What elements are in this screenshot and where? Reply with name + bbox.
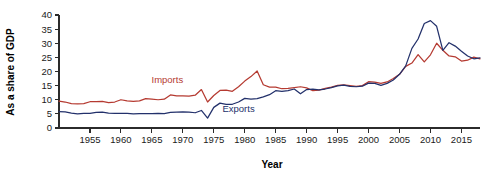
x-tick-label: 1995 — [327, 134, 348, 145]
y-axis-title: As a share of GDP — [5, 28, 16, 116]
x-axis-title: Year — [261, 159, 282, 170]
exports-label: Exports — [222, 103, 254, 114]
x-tick-label: 1980 — [234, 134, 255, 145]
x-tick-label: 1965 — [141, 134, 162, 145]
x-tick-label: 2010 — [420, 134, 441, 145]
x-tick-label: 1975 — [203, 134, 224, 145]
y-axis-tick-labels: 0510152025303540 — [41, 9, 52, 133]
x-tick-label: 2000 — [358, 134, 379, 145]
imports-exports-line-chart: 0510152025303540 19551960196519701975198… — [0, 0, 488, 173]
y-tick-label: 10 — [41, 94, 52, 105]
series-line-exports — [59, 21, 480, 118]
y-tick-label: 40 — [41, 9, 52, 20]
x-axis-tick-labels: 1955196019651970197519801985199019952000… — [79, 134, 472, 145]
y-tick-label: 0 — [47, 122, 52, 133]
x-axis-ticks — [90, 128, 461, 133]
x-tick-label: 1990 — [296, 134, 317, 145]
x-tick-label: 1985 — [265, 134, 286, 145]
y-tick-label: 35 — [41, 24, 52, 35]
axes-group — [55, 15, 480, 133]
y-tick-label: 25 — [41, 52, 52, 63]
x-tick-label: 1970 — [172, 134, 193, 145]
y-tick-label: 5 — [47, 108, 52, 119]
y-tick-label: 30 — [41, 38, 52, 49]
imports-label: Imports — [152, 74, 184, 85]
x-tick-label: 2005 — [389, 134, 410, 145]
x-tick-label: 1960 — [110, 134, 131, 145]
y-tick-label: 20 — [41, 66, 52, 77]
y-tick-label: 15 — [41, 80, 52, 91]
chart-figure: 0510152025303540 19551960196519701975198… — [0, 0, 488, 173]
x-tick-label: 2015 — [451, 134, 472, 145]
x-tick-label: 1955 — [79, 134, 100, 145]
data-series-group — [59, 21, 480, 118]
